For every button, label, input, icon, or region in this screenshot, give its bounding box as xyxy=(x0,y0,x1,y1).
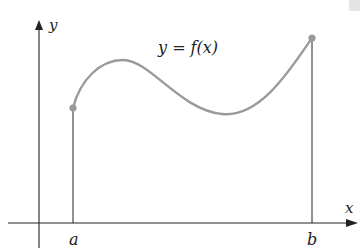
curve-label: y = f(x) xyxy=(157,38,218,57)
x-axis xyxy=(8,219,358,227)
b-label: b xyxy=(307,230,317,249)
function-graph: y x y = f(x) a b xyxy=(0,0,360,251)
a-label: a xyxy=(69,230,79,249)
y-axis-arrow-icon xyxy=(35,20,43,30)
x-axis-arrow-icon xyxy=(346,219,358,227)
y-axis xyxy=(35,20,43,248)
left-endpoint xyxy=(69,104,76,111)
right-endpoint xyxy=(308,34,315,41)
y-axis-label: y xyxy=(48,16,58,34)
x-axis-label: x xyxy=(345,199,354,217)
